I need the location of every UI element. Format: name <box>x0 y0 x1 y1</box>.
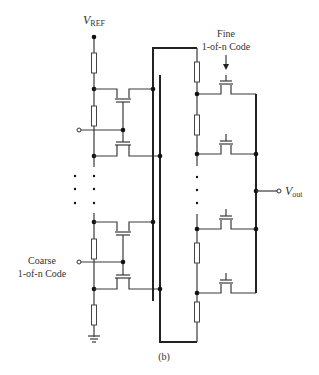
coarse-label-line1: Coarse <box>28 255 56 266</box>
vout-label: Vout <box>285 184 303 199</box>
resistor-string-dac-circuit: VREF Vout Fine 1-of-n Code Coarse 1-of-n… <box>0 0 319 375</box>
arrow-down-icon <box>223 55 229 70</box>
fine-label-line2: 1-of-n Code <box>202 41 251 52</box>
resistor-fine-3 <box>195 243 200 263</box>
coarse-ladder <box>74 35 160 342</box>
coarse-input-terminal-1 <box>77 128 81 132</box>
resistor-fine-2 <box>195 115 200 135</box>
resistor-coarse-2 <box>92 106 97 126</box>
coarse-input-terminal-2 <box>77 260 81 264</box>
resistor-coarse-1 <box>92 53 97 73</box>
vref-node <box>92 35 97 40</box>
figure-caption: (b) <box>158 351 170 363</box>
resistor-fine-1 <box>195 62 200 82</box>
resistor-coarse-4 <box>92 305 97 325</box>
fine-label-line1: Fine <box>217 28 235 39</box>
resistor-fine-4 <box>195 302 200 322</box>
fine-ladder <box>195 48 282 342</box>
vout-terminal <box>277 189 281 193</box>
vref-label: VREF <box>83 13 106 28</box>
resistor-coarse-3 <box>92 239 97 259</box>
coarse-label-line2: 1-of-n Code <box>18 268 67 279</box>
bus-lines <box>151 48 197 342</box>
